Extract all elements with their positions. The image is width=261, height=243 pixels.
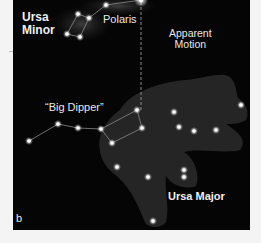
panel-letter: b — [16, 213, 22, 225]
polaris-label: Polaris — [103, 14, 137, 26]
ursa-major-label: Ursa Major — [168, 191, 225, 203]
ursa-major-bear-silhouette — [99, 75, 247, 227]
big-dipper-label: “Big Dipper” — [45, 102, 104, 114]
apparent-motion-line2: Motion — [169, 39, 212, 50]
apparent-motion-label: Apparent Motion — [169, 28, 212, 50]
ursa-minor-label-line1: Ursa — [22, 11, 55, 24]
star-chart-panel: Ursa Minor Polaris Apparent Motion “Big … — [13, 0, 250, 230]
ursa-minor-label-line2: Minor — [22, 24, 55, 37]
ursa-minor-label: Ursa Minor — [22, 11, 55, 36]
